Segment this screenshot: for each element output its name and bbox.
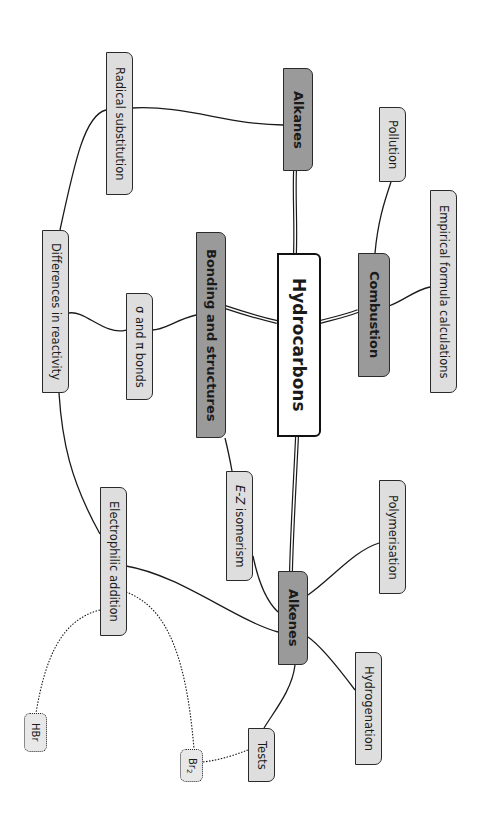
node-sigma-pi-bonds[interactable]: σ and π bonds — [126, 293, 153, 400]
node-electrophilic-addition[interactable]: Electrophilic addition — [100, 487, 127, 636]
node-ez-isomerism[interactable]: E-Z isomerism — [226, 471, 253, 581]
node-differences-reactivity[interactable]: Differences in reactivity — [42, 230, 69, 393]
connector-lines — [0, 0, 481, 834]
node-combustion[interactable]: Combustion — [358, 253, 390, 377]
node-pollution[interactable]: Pollution — [379, 107, 406, 182]
node-alkanes[interactable]: Alkanes — [283, 68, 313, 171]
node-br2[interactable]: Br2 — [180, 749, 203, 782]
node-alkenes[interactable]: Alkenes — [278, 571, 308, 665]
node-hbr[interactable]: HBr — [24, 713, 47, 752]
root-alkenes-link — [291, 437, 297, 571]
node-hydrocarbons-root[interactable]: Hydrocarbons — [277, 253, 321, 437]
root-combustion-link — [320, 311, 358, 322]
node-hydrogenation[interactable]: Hydrogenation — [355, 652, 382, 765]
root-alkanes-link — [295, 170, 296, 253]
node-radical-substitution[interactable]: Radical substitution — [106, 52, 133, 195]
node-polymerisation[interactable]: Polymerisation — [379, 480, 406, 594]
node-bonding-structures[interactable]: Bonding and structures — [196, 232, 226, 438]
node-tests[interactable]: Tests — [248, 728, 275, 782]
node-empirical-formula[interactable]: Empirical formula calculations — [430, 190, 457, 393]
root-bonding-link — [225, 307, 277, 322]
